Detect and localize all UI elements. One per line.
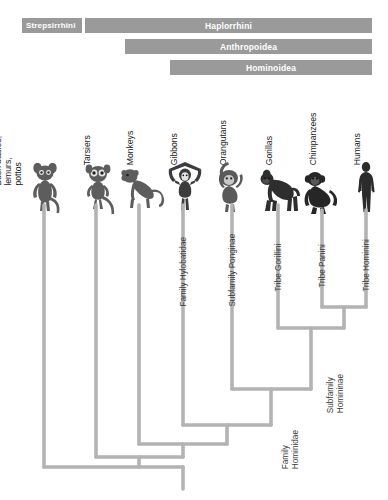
rank-label-tribe-panini: Tribe Panini (318, 244, 328, 287)
clade-bar-label: Strepsirrhini (26, 21, 76, 30)
rank-label-tribe-gorillini: Tribe Gorillini (274, 244, 284, 292)
taxon-label-gibbons: Gibbons (169, 133, 179, 165)
taxon-label-chimpanzees: Chimpanzees (308, 113, 318, 166)
taxon-label-tarsiers: Tarsiers (82, 135, 92, 165)
clade-bar-haplorrhini: Haplorrhini (85, 18, 372, 33)
clade-bar-strepsirrhini: Strepsirrhini (22, 18, 82, 33)
rank-label-family-hominidae: Family Hominidae (281, 430, 300, 469)
silhouette-chimpanzee (302, 168, 344, 216)
silhouette-gorilla (258, 166, 302, 216)
cladogram-branches (0, 0, 388, 500)
clade-bar-label: Hominoidea (246, 63, 296, 73)
clade-bar-label: Haplorrhini (205, 21, 252, 31)
taxon-label-gorillas: Gorillas (264, 136, 274, 165)
clade-bar-hominoidea: Hominoidea (170, 60, 372, 75)
taxon-label-monkeys: Monkeys (125, 131, 135, 165)
rank-label-subfamily-homininae: Subfamily Homininae (326, 374, 345, 413)
silhouette-tarsier (78, 163, 120, 215)
silhouette-gibbon (166, 160, 204, 216)
clade-bar-label: Anthropoidea (220, 42, 277, 52)
silhouette-bush-baby (28, 163, 68, 215)
taxon-label-humans: Humans (352, 133, 362, 165)
rank-label-subfamily-ponginae: Subfamily Ponginae (228, 234, 238, 307)
silhouette-orangutan (214, 160, 252, 216)
silhouette-monkey (118, 166, 166, 214)
rank-label-family-hylobatidae: Family Hylobatidae (179, 237, 189, 307)
clade-bar-anthropoidea: Anthropoidea (125, 39, 372, 54)
silhouette-human (352, 160, 380, 216)
primate-cladogram-figure: Strepsirrhini Haplorrhini Anthropoidea H… (0, 0, 388, 500)
taxon-label-bush-babies: Bush babies, lemurs, pottos (0, 136, 24, 186)
rank-label-tribe-hominini: Tribe Hominini (362, 239, 372, 291)
taxon-label-orangutans: Orangutans (218, 120, 228, 165)
